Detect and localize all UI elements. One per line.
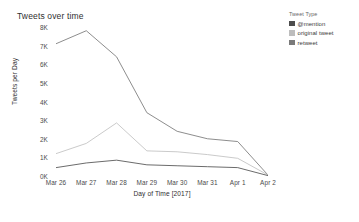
legend-item[interactable]: @mention	[289, 20, 351, 27]
x-axis-tick: Mar 31	[197, 179, 218, 186]
series-line-original-tweet	[56, 31, 268, 175]
y-axis-tick: 4K	[40, 98, 48, 105]
chart-title: Tweets over time	[17, 11, 84, 21]
y-axis-tick: 8K	[40, 24, 48, 31]
x-axis-tick: Mar 28	[106, 179, 127, 186]
plot-area	[56, 27, 268, 176]
y-axis-tick: 1K	[40, 154, 48, 161]
series-line-mention	[56, 160, 268, 175]
x-axis-tick: Apr 1	[230, 179, 246, 186]
legend-swatch-icon	[289, 21, 295, 27]
y-axis-tick: 6K	[40, 61, 48, 68]
x-axis-tick: Mar 29	[137, 179, 158, 186]
y-axis-tick: 3K	[40, 117, 48, 124]
chart-container: Tweets over time Tweets per Day 0K1K2K3K…	[0, 0, 359, 222]
x-axis-tick: Mar 26	[46, 179, 67, 186]
legend-item[interactable]: original tweet	[289, 30, 351, 37]
x-axis-tick: Apr 2	[260, 179, 276, 186]
x-axis-title: Day of Time [2017]	[56, 190, 268, 197]
x-axis-tick: Mar 30	[167, 179, 188, 186]
legend-swatch-icon	[289, 40, 295, 46]
y-axis-tick: 2K	[40, 135, 48, 142]
y-axis-tick: 5K	[40, 79, 48, 86]
legend: Tweet Type @mentionoriginal tweetretweet	[289, 11, 351, 49]
legend-item-label: retweet	[298, 40, 318, 46]
x-axis-tick: Mar 27	[76, 179, 97, 186]
legend-item-label: original tweet	[298, 30, 334, 36]
legend-items: @mentionoriginal tweetretweet	[289, 20, 351, 46]
y-axis-tick: 7K	[40, 42, 48, 49]
y-axis-tick-labels: 0K1K2K3K4K5K6K7K8K	[0, 27, 52, 176]
legend-item[interactable]: retweet	[289, 39, 351, 46]
legend-title: Tweet Type	[289, 11, 351, 17]
legend-item-label: @mention	[298, 21, 326, 27]
legend-swatch-icon	[289, 30, 295, 36]
line-series-svg	[56, 27, 268, 176]
